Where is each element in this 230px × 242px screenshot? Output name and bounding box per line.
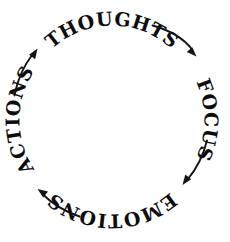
node-label-emotions: EMOTIONS [43, 189, 182, 232]
arrow-emotions-to-actions-head-icon [38, 189, 49, 197]
cycle-diagram-canvas: THOUGHTS FOCUS EMOTIONS ACTIONS [0, 0, 230, 242]
node-label-thoughts-text: THOUGHTS [41, 7, 184, 52]
node-label-emotions-text: EMOTIONS [43, 189, 182, 232]
cycle-diagram: THOUGHTS FOCUS EMOTIONS ACTIONS [0, 0, 230, 242]
node-label-thoughts: THOUGHTS [41, 7, 184, 52]
node-label-focus: FOCUS [192, 75, 222, 164]
node-label-focus-text: FOCUS [192, 75, 222, 164]
arrow-thoughts-to-focus-head-icon [187, 47, 197, 56]
